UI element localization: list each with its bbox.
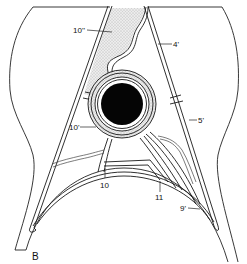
anatomical-diagram <box>0 0 247 264</box>
label-10-prime: 10' <box>69 124 79 132</box>
label-9-prime: 9' <box>180 205 186 213</box>
ring-structure <box>88 70 156 138</box>
label-11: 11 <box>155 194 163 202</box>
dark-core <box>101 83 143 125</box>
label-10-double-prime: 10'' <box>73 27 85 35</box>
panel-label: B <box>32 252 39 262</box>
label-10: 10 <box>100 182 109 190</box>
label-5-prime: 5' <box>198 117 204 125</box>
label-4-prime: 4' <box>173 41 179 49</box>
